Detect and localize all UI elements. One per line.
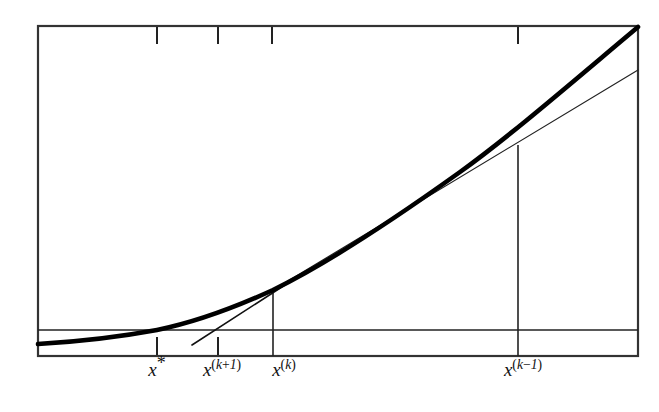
axis-label-x-k: x(k) — [272, 360, 296, 379]
math-figure-svg — [0, 0, 659, 412]
vertical-drop-line-group — [273, 145, 518, 356]
function-curve — [38, 27, 638, 344]
bottom-tick-group — [157, 337, 218, 355]
figure-container: x* x(k+1) x(k) x(k−1) — [0, 0, 659, 412]
top-tick-group — [157, 27, 518, 44]
axis-label-x-k-minus-1: x(k−1) — [504, 360, 542, 379]
plot-frame — [38, 26, 638, 356]
axis-label-x-star: x* — [148, 360, 165, 379]
secant-line — [273, 70, 638, 290]
frame-border — [38, 26, 638, 356]
axis-label-x-k-plus-1: x(k+1) — [203, 360, 241, 379]
